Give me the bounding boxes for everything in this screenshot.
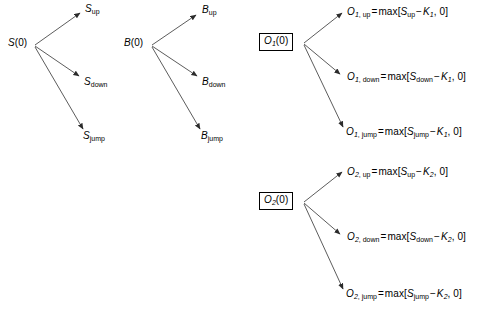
stock-node-up: Sup <box>85 4 100 15</box>
stock-root-arg: (0) <box>15 37 28 48</box>
option1-equation-up: O1, up=max[Sup−K1, 0] <box>347 6 448 18</box>
stock-tree-edges <box>35 13 83 129</box>
o1up-func: max <box>378 6 397 17</box>
o2up-arg-state: up <box>407 171 415 178</box>
o2up-lhs-symbol: O <box>347 166 355 177</box>
bond-up-subscript: up <box>209 9 217 16</box>
o1down-lhs-symbol: O <box>347 71 355 82</box>
option2-equation-down: O2, down=max[Sdown−K2, 0] <box>347 231 466 243</box>
o2down-arg-state: down <box>416 236 433 243</box>
o2jump-lhs-state: jump <box>362 293 377 300</box>
stock-down-subscript: down <box>91 81 108 88</box>
option2-tree-root: O2(0) <box>259 192 293 210</box>
o1up-arg-state: up <box>407 11 415 18</box>
o2down-minus: − <box>433 231 441 242</box>
o1down-close-bracket: ] <box>463 71 466 82</box>
option2-equation-up: O2, up=max[Sup−K2, 0] <box>347 166 448 178</box>
o1down-func: max <box>387 71 406 82</box>
o1down-strike-symbol: K <box>441 71 448 82</box>
bond-jump-symbol: B <box>201 130 208 141</box>
bond-up-symbol: B <box>202 4 209 15</box>
o2down-close-bracket: ] <box>463 231 466 242</box>
bond-tree-edges <box>152 15 200 129</box>
option1-equation-down: O1, down=max[Sdown−K1, 0] <box>347 71 466 83</box>
bond-root-arg: (0) <box>131 37 144 48</box>
o2jump-func: max <box>385 288 404 299</box>
option1-root-box: O1(0) <box>259 33 293 51</box>
o1jump-minus: − <box>429 126 437 137</box>
bond-root-symbol: B <box>124 37 131 48</box>
o2jump-strike-symbol: K <box>437 288 444 299</box>
o2jump-equals: = <box>377 288 385 299</box>
option1-tree-root: O1(0) <box>259 33 293 51</box>
o2jump-minus: − <box>429 288 437 299</box>
o1up-minus: − <box>415 6 423 17</box>
o1jump-arg-state: jump <box>414 131 429 138</box>
o1jump-equals: = <box>377 126 385 137</box>
bond-node-jump: Bjump <box>201 131 223 142</box>
stock-node-jump: Sjump <box>83 131 105 142</box>
option2-tree-edges <box>304 172 343 289</box>
stock-up-symbol: S <box>85 3 92 14</box>
option1-equation-jump: O1, jump=max[Sjump−K1, 0] <box>346 126 462 138</box>
o2jump-lhs-symbol: O <box>346 288 354 299</box>
stock-tree-root: S(0) <box>8 38 27 49</box>
bond-down-subscript: down <box>209 81 226 88</box>
o2up-func: max <box>378 166 397 177</box>
o2jump-close-bracket: ] <box>459 288 462 299</box>
option1-tree-edges <box>304 13 343 127</box>
o1down-minus: − <box>433 71 441 82</box>
o1jump-close-bracket: ] <box>459 126 462 137</box>
stock-jump-symbol: S <box>83 130 90 141</box>
stock-jump-subscript: jump <box>90 135 105 142</box>
bond-tree-root: B(0) <box>124 38 143 49</box>
o2jump-arg-symbol: S <box>407 288 414 299</box>
o2down-lhs-state: down <box>363 236 380 243</box>
diagram-edges <box>0 0 490 315</box>
o2down-lhs-symbol: O <box>347 231 355 242</box>
diagram-canvas: S(0) Sup Sdown Sjump B(0) Bup Bdown Bjum… <box>0 0 490 315</box>
o2jump-arg-state: jump <box>414 293 429 300</box>
o1jump-lhs-symbol: O <box>346 126 354 137</box>
option2-root-symbol: O <box>264 194 272 205</box>
stock-up-subscript: up <box>92 8 100 15</box>
stock-node-down: Sdown <box>84 77 108 88</box>
option1-root-symbol: O <box>264 35 272 46</box>
stock-down-symbol: S <box>84 76 91 87</box>
stock-root-symbol: S <box>8 37 15 48</box>
o2down-strike-symbol: K <box>441 231 448 242</box>
option2-root-arg: (0) <box>276 194 289 205</box>
o2up-minus: − <box>415 166 423 177</box>
o2up-strike-symbol: K <box>423 166 430 177</box>
o1down-arg-state: down <box>416 76 433 83</box>
bond-down-symbol: B <box>202 76 209 87</box>
bond-node-up: Bup <box>202 5 217 16</box>
o1down-lhs-state: down <box>363 76 380 83</box>
bond-node-down: Bdown <box>202 77 226 88</box>
o1jump-arg-symbol: S <box>407 126 414 137</box>
o1jump-strike-symbol: K <box>437 126 444 137</box>
o1jump-lhs-state: jump <box>362 131 377 138</box>
o1jump-func: max <box>385 126 404 137</box>
o2up-close-bracket: ] <box>445 166 448 177</box>
bond-jump-subscript: jump <box>208 135 223 142</box>
o1up-strike-symbol: K <box>423 6 430 17</box>
o2down-func: max <box>387 231 406 242</box>
option2-equation-jump: O2, jump=max[Sjump−K2, 0] <box>346 288 462 300</box>
option1-root-arg: (0) <box>276 35 289 46</box>
o1up-close-bracket: ] <box>445 6 448 17</box>
o1up-lhs-symbol: O <box>347 6 355 17</box>
option2-root-box: O2(0) <box>259 192 293 210</box>
